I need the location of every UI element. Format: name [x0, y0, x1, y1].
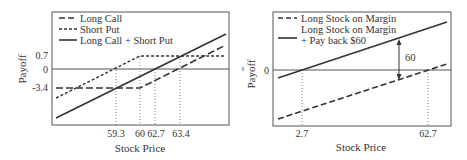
right-ylabel: Payoff	[245, 59, 257, 88]
right-xlabel: Stock Price	[336, 141, 387, 153]
legend-long-stock-plus-payback-line1: Long Stock on Margin	[301, 24, 397, 35]
legend-long-call: Long Call	[80, 13, 122, 24]
left-xlabel: Stock Price	[115, 142, 166, 154]
left-xtick-62.7: 62.7	[147, 128, 165, 139]
left-reference-lines	[116, 56, 180, 125]
legend-long-stock-plus-payback-line2: + Pay back $60	[301, 35, 366, 46]
legend-long-stock-on-margin: Long Stock on Margin	[301, 13, 397, 24]
right-chart: 60 Long Stock on Margin Long Stock on Ma…	[238, 12, 451, 153]
left-legend: Long Call Short Put Long Call + Short Pu…	[59, 13, 173, 46]
left-xtick-60: 60	[135, 128, 145, 139]
right-ylabel-marker: =	[238, 66, 248, 71]
left-ylabel: Payoff	[16, 54, 28, 83]
right-xtick-2.7: 2.7	[296, 128, 309, 139]
left-ytick-0.7: 0.7	[36, 50, 49, 61]
series-short-put	[56, 56, 226, 98]
left-xtick-59.3: 59.3	[107, 128, 125, 139]
legend-short-put: Short Put	[80, 24, 119, 35]
right-xtick-62.7: 62.7	[419, 128, 437, 139]
series-long-stock-on-margin	[278, 64, 447, 119]
left-chart: Long Call Short Put Long Call + Short Pu…	[16, 12, 229, 154]
right-legend: Long Stock on Margin Long Stock on Margi…	[278, 13, 397, 47]
left-xtick-63.4: 63.4	[172, 128, 190, 139]
left-ytick-0: 0	[43, 64, 48, 75]
right-reference-lines	[302, 70, 428, 126]
gap-label: 60	[405, 52, 416, 63]
left-ytick-neg3.4: -3.4	[32, 82, 48, 93]
right-ytick-0: 0	[264, 65, 269, 76]
series-long-call	[56, 45, 226, 88]
figure: Long Call Short Put Long Call + Short Pu…	[0, 0, 467, 160]
gap-arrow	[397, 39, 402, 80]
legend-long-call-plus-short-put: Long Call + Short Put	[80, 35, 173, 46]
series-long-call-plus-short-put	[56, 34, 226, 118]
